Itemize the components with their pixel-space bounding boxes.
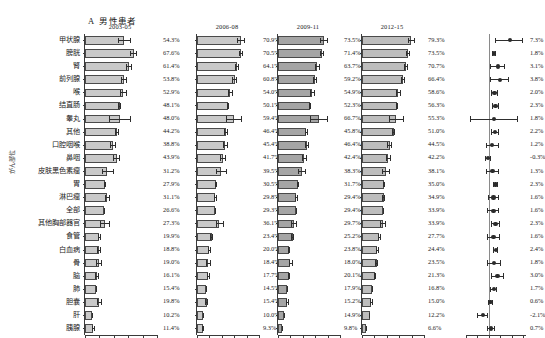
bar-value-label: 29.4%	[344, 206, 361, 213]
bar-value-label: 24.4%	[428, 245, 445, 252]
bar-row: 45.4%	[197, 139, 258, 152]
bar	[278, 62, 317, 71]
bar-row: 26.6%	[85, 204, 156, 217]
category-label: 结直肠	[14, 99, 82, 112]
confidence-interval-whisker	[305, 132, 308, 133]
trend-value-label: 1.8%	[530, 114, 543, 121]
confidence-interval-whisker	[237, 40, 245, 41]
bar-value-label: 67.6%	[163, 49, 180, 56]
bar-value-label: 27.9%	[163, 180, 180, 187]
bar-row: 34.9%	[362, 191, 423, 204]
bar-value-label: 33.9%	[428, 206, 445, 213]
panel-plot-area: 54.3%67.6%61.4%53.8%52.9%48.1%48.0%44.2%…	[84, 34, 156, 335]
bar-value-label: 45.8%	[344, 127, 361, 134]
bar	[197, 193, 215, 202]
trend-value-label: 2.2%	[530, 127, 543, 134]
confidence-interval-whisker	[97, 250, 101, 251]
confidence-interval-whisker	[288, 250, 290, 251]
bar-row: 73.5%	[278, 34, 339, 47]
bar	[85, 141, 113, 150]
bar-row: 73.5%	[362, 47, 423, 60]
bar-row: 19.0%	[85, 257, 156, 270]
bar-row: 29.8%	[197, 191, 258, 204]
bar-value-label: 79.3%	[428, 36, 445, 43]
bar-value-label: 15.2%	[344, 297, 361, 304]
bar-value-label: 29.7%	[344, 219, 361, 226]
bar-row: 23.5%	[362, 257, 423, 270]
bar-row: 33.9%	[362, 204, 423, 217]
category-label: 胰腺	[14, 322, 82, 335]
trend-value-label: 1.6%	[530, 206, 543, 213]
confidence-interval-whisker	[102, 171, 113, 172]
trend-row: 3.0%	[466, 270, 526, 283]
bar-value-label: 26.6%	[163, 206, 180, 213]
bar-row: 48.1%	[85, 99, 156, 112]
bar-value-label: 9.3%	[263, 324, 276, 331]
bar-value-label: 38.3%	[344, 167, 361, 174]
bar-value-label: 19.8%	[163, 297, 180, 304]
bar-panel-2003-05: 2003-0554.3%67.6%61.4%53.8%52.9%48.1%48.…	[84, 34, 156, 335]
confidence-interval-whisker	[104, 184, 106, 185]
bar-value-label: 54.9%	[344, 88, 361, 95]
bar	[278, 49, 322, 58]
category-label: 膀胱	[14, 47, 82, 60]
confidence-interval-whisker	[207, 276, 210, 277]
trend-value-label: 3.0%	[530, 271, 543, 278]
bar-value-label: 16.1%	[163, 271, 180, 278]
confidence-interval-whisker	[110, 145, 116, 146]
bar-value-label: 19.0%	[163, 258, 180, 265]
confidence-interval-whisker	[396, 92, 401, 93]
trend-point-marker	[492, 91, 496, 95]
bar	[85, 75, 124, 84]
bar-value-label: 42.2%	[428, 153, 445, 160]
bar-row: 48.0%	[85, 113, 156, 126]
trend-point-marker	[493, 130, 497, 134]
bar-row: 29.7%	[278, 217, 339, 230]
confidence-interval-whisker	[210, 237, 213, 238]
bar-row: 43.9%	[85, 152, 156, 165]
bar-row: 20.0%	[197, 244, 258, 257]
bar-row: 19.8%	[85, 296, 156, 309]
trend-value-label: 1.3%	[530, 167, 543, 174]
bar-row: 70.5%	[197, 47, 258, 60]
bar-row: 31.7%	[278, 178, 339, 191]
bar-value-label: 17.9%	[344, 284, 361, 291]
confidence-interval-whisker	[369, 315, 370, 316]
bar	[197, 75, 235, 84]
trend-row: 2.3%	[466, 217, 526, 230]
category-label: 胆囊	[14, 296, 82, 309]
trend-value-label: 1.6%	[530, 232, 543, 239]
trend-point-marker	[493, 104, 497, 108]
bar-row: 36.1%	[197, 217, 258, 230]
bar-row: 42.2%	[362, 152, 423, 165]
category-label: 胃	[14, 178, 82, 191]
bar	[85, 285, 96, 294]
trend-point-marker	[490, 143, 494, 147]
bar-value-label: 58.6%	[428, 88, 445, 95]
bar	[278, 180, 298, 189]
bar	[197, 180, 216, 189]
trend-point-marker	[498, 78, 502, 82]
bar-row: 31.1%	[85, 191, 156, 204]
trend-point-marker	[490, 169, 494, 173]
confidence-interval-whisker	[382, 171, 390, 172]
trend-point-marker	[508, 38, 512, 42]
bar-value-label: 18.0%	[344, 258, 361, 265]
bar-value-label: 20.1%	[344, 271, 361, 278]
confidence-interval-whisker	[206, 289, 207, 290]
x-axis	[197, 335, 259, 336]
trend-value-label: 1.7%	[530, 284, 543, 291]
bar-panel-2009-11: 2009-1173.5%71.4%63.7%59.2%54.9%52.3%66.…	[277, 34, 339, 335]
panel-period-label: 2003-05	[84, 23, 156, 30]
bar-value-label: 14.9%	[344, 311, 361, 318]
bar-value-label: 73.5%	[344, 36, 361, 43]
bar-value-label: 48.1%	[163, 101, 180, 108]
bar	[197, 102, 228, 111]
bar-row: 17.7%	[197, 270, 258, 283]
bar-row: 44.2%	[85, 126, 156, 139]
bar-row: 24.4%	[362, 244, 423, 257]
trend-point-marker	[492, 51, 496, 55]
panel-period-label: 2012-15	[361, 23, 423, 30]
category-label: 白血病	[14, 244, 82, 257]
bar-row: 60.8%	[197, 73, 258, 86]
